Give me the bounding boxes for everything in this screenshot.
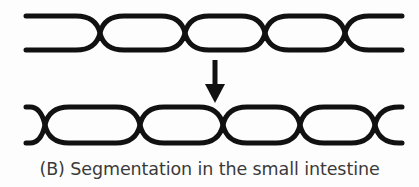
figure-caption-bar: (B) Segmentation in the small intestine <box>0 152 419 187</box>
tube-upper-group <box>26 16 402 50</box>
tube-lower-top-wall <box>26 107 402 125</box>
tube-lower-group <box>26 107 402 143</box>
arrow-head <box>205 84 225 103</box>
figure-caption: (B) Segmentation in the small intestine <box>39 161 379 179</box>
segmentation-figure: (B) Segmentation in the small intestine <box>0 0 419 187</box>
tube-upper-bottom-wall <box>26 33 402 50</box>
downward-transition-arrow <box>205 60 225 103</box>
tube-upper-top-wall <box>26 16 402 33</box>
intestine-diagram <box>0 0 419 152</box>
tube-lower-bottom-wall <box>26 125 402 143</box>
